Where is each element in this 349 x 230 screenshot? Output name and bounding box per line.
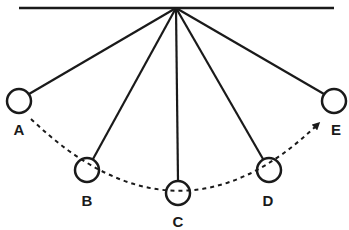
label-e: E: [331, 121, 341, 138]
string-c: [176, 8, 178, 181]
pendulum-diagram: A B C D E: [0, 0, 349, 230]
label-b: B: [82, 192, 93, 209]
string-d: [176, 8, 263, 159]
bob-c: [166, 181, 190, 205]
label-c: C: [173, 213, 184, 230]
string-e: [176, 8, 324, 94]
string-a: [29, 8, 176, 94]
bob-d: [257, 158, 281, 182]
bob-a: [7, 89, 31, 113]
label-d: D: [263, 192, 274, 209]
string-b: [93, 8, 176, 159]
label-a: A: [14, 121, 25, 138]
bob-e: [322, 89, 346, 113]
bob-b: [75, 158, 99, 182]
